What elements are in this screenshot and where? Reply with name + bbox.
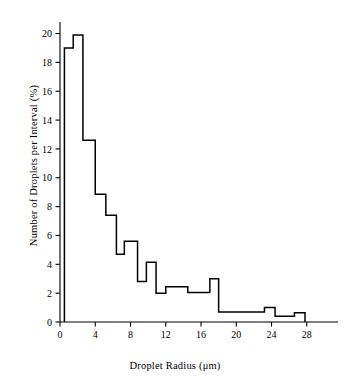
y-tick-label: 2 xyxy=(47,288,52,299)
x-tick-label: 0 xyxy=(58,329,63,340)
y-tick-label: 10 xyxy=(42,172,52,183)
x-tick-label: 8 xyxy=(128,329,133,340)
x-tick-label: 20 xyxy=(231,329,241,340)
x-tick-label: 16 xyxy=(196,329,206,340)
y-tick-label: 20 xyxy=(42,28,52,39)
x-axis-label: Droplet Radius (μm) xyxy=(0,360,350,371)
y-tick-label: 18 xyxy=(42,57,52,68)
x-tick-label: 4 xyxy=(93,329,98,340)
x-tick-label: 28 xyxy=(302,329,312,340)
y-tick-label: 6 xyxy=(47,230,52,241)
y-tick-label: 14 xyxy=(42,115,52,126)
y-tick-label: 8 xyxy=(47,201,52,212)
y-tick-label: 0 xyxy=(47,317,52,328)
y-tick-label: 4 xyxy=(47,259,52,270)
y-tick-label: 16 xyxy=(42,86,52,97)
y-tick-label: 12 xyxy=(42,144,52,155)
histogram-outline xyxy=(64,35,305,322)
x-tick-label: 12 xyxy=(161,329,171,340)
x-tick-label: 24 xyxy=(267,329,277,340)
chart-figure: Number of Droplets per Interval (%) 0246… xyxy=(0,0,350,387)
histogram-plot: 024681012141618200481216202428 xyxy=(0,0,350,355)
